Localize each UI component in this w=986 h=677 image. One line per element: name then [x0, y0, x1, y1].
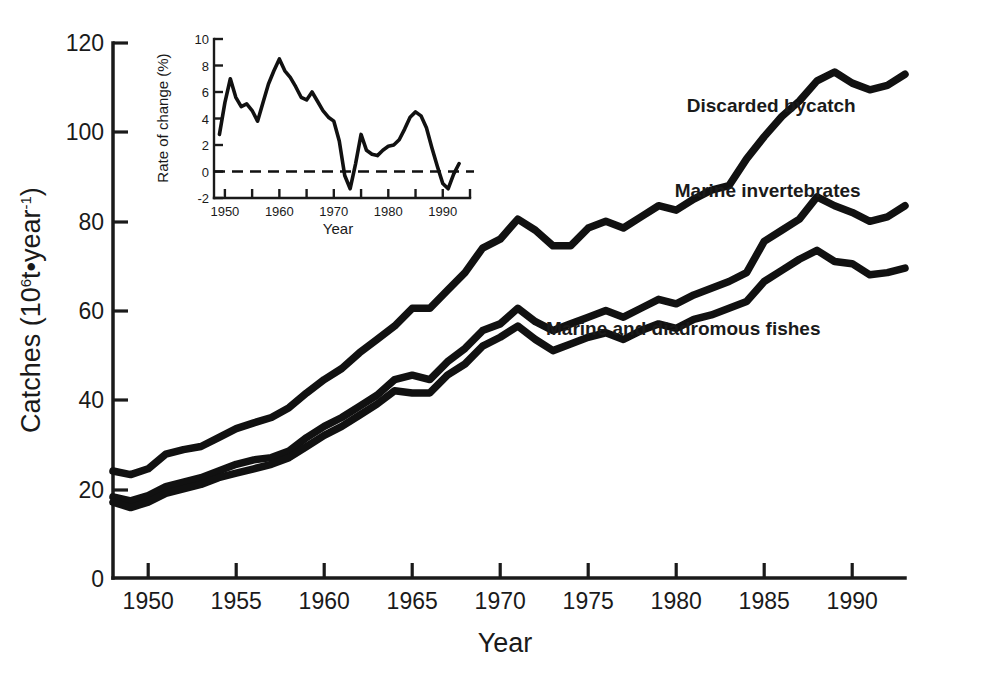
- inset-x-tick-label: 1980: [374, 204, 403, 219]
- x-tick-label: 1950: [123, 588, 174, 614]
- x-axis-ticks: [148, 563, 852, 578]
- y-axis-title-exponent-2: -1: [17, 196, 34, 209]
- y-axis-ticks: [113, 43, 128, 490]
- series-label-2: Marine and diadromous fishes: [546, 318, 821, 339]
- y-axis-tick-labels: 120 100 80 60 40 20 0: [66, 30, 104, 592]
- y-axis-title: Catches (106t•year-1): [16, 187, 46, 433]
- x-tick-label: 1955: [211, 588, 262, 614]
- inset-y-tick-label: 4: [202, 112, 209, 127]
- inset-x-tick-label: 1990: [428, 204, 457, 219]
- inset-y-tick-label: 8: [202, 59, 209, 74]
- catches-line-chart: Catches (106t•year-1) Year 120 100 80: [0, 0, 986, 677]
- x-tick-label: 1990: [827, 588, 878, 614]
- inset-chart: Rate of change (%) Year -20246810 195019…: [150, 18, 490, 240]
- series-label-1: Marine invertebrates: [675, 180, 861, 201]
- y-axis-title-prefix: Catches (10: [16, 287, 46, 433]
- y-tick-label: 120: [66, 30, 104, 56]
- y-axis-title-mid: t•year: [16, 209, 46, 278]
- x-tick-label: 1985: [739, 588, 790, 614]
- inset-y-axis-title: Rate of change (%): [154, 53, 171, 182]
- y-tick-label: 100: [66, 119, 104, 145]
- y-tick-label: 60: [78, 298, 104, 324]
- y-tick-label: 80: [78, 209, 104, 235]
- series-line-1: [113, 197, 905, 501]
- inset-y-tick-label: 10: [195, 32, 209, 47]
- y-axis-title-suffix: ): [16, 187, 46, 196]
- x-tick-label: 1980: [651, 588, 702, 614]
- x-tick-label: 1960: [299, 588, 350, 614]
- series-label-group: Discarded bycatchMarine invertebratesMar…: [546, 95, 861, 339]
- series-label-0: Discarded bycatch: [687, 95, 856, 116]
- x-axis-tick-labels: 195019551960196519701975198019851990: [123, 588, 878, 614]
- inset-x-axis-title: Year: [323, 220, 353, 237]
- x-tick-label: 1975: [563, 588, 614, 614]
- inset-x-tick-label: 1950: [210, 204, 239, 219]
- x-tick-label: 1965: [387, 588, 438, 614]
- x-tick-label: 1970: [475, 588, 526, 614]
- y-tick-label: 40: [78, 387, 104, 413]
- figure-root: Catches (106t•year-1) Year 120 100 80: [0, 0, 986, 677]
- inset-x-tick-label: 1960: [265, 204, 294, 219]
- inset-y-tick-label: -2: [197, 191, 209, 206]
- y-tick-label: 20: [78, 477, 104, 503]
- x-axis-title: Year: [478, 628, 533, 658]
- y-axis-title-exponent: 6: [17, 279, 34, 287]
- inset-y-tick-label: 2: [202, 138, 209, 153]
- inset-y-tick-label: 6: [202, 85, 209, 100]
- inset-x-tick-label: 1970: [319, 204, 348, 219]
- y-tick-label: 0: [91, 566, 104, 592]
- inset-y-tick-label: 0: [202, 165, 209, 180]
